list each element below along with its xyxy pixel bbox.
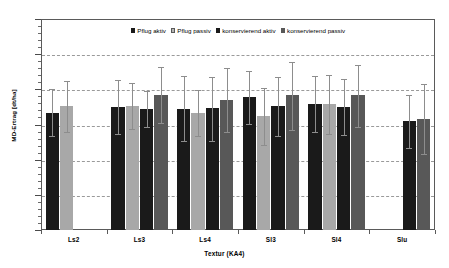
error-bar	[132, 83, 133, 129]
error-bar-cap	[326, 75, 332, 76]
x-tick-label-ls4: Ls4	[180, 236, 230, 243]
legend-swatch-icon	[216, 28, 221, 33]
x-tick-mark	[107, 230, 108, 234]
legend-entry: konservierend aktiv	[216, 27, 276, 34]
legend-entry: Pflug aktiv	[131, 27, 166, 34]
error-bar-cap	[209, 77, 215, 78]
legend-label: Pflug aktiv	[137, 27, 166, 34]
x-tick-mark	[369, 230, 370, 234]
error-bar-cap	[224, 68, 230, 69]
chart-legend: Pflug aktivPflug passivkonservierend akt…	[41, 27, 435, 34]
x-tick-mark	[304, 230, 305, 234]
error-bar	[227, 68, 228, 132]
error-bar-cap	[421, 154, 427, 155]
legend-entry: konservierend passiv	[281, 27, 346, 34]
error-bar	[198, 90, 199, 136]
error-bar-cap	[158, 123, 164, 124]
error-bar-cap	[49, 89, 55, 90]
error-bar-cap	[181, 141, 187, 142]
error-bar-cap	[64, 132, 70, 133]
x-axis-title: Textur (KA4)	[0, 250, 449, 257]
error-bar	[118, 80, 119, 134]
error-bar-cap	[195, 136, 201, 137]
error-bar	[278, 77, 279, 136]
error-bar	[292, 62, 293, 130]
error-bar-cap	[144, 91, 150, 92]
legend-swatch-icon	[281, 28, 286, 33]
x-tick-label-ls3: Ls3	[115, 236, 165, 243]
legend-swatch-icon	[171, 28, 176, 33]
error-bar	[212, 77, 213, 140]
y-axis-title: MD-Ertrag [dt/ha]	[10, 66, 17, 166]
x-tick-mark	[435, 230, 436, 234]
error-bar-cap	[129, 83, 135, 84]
error-bar-cap	[355, 127, 361, 128]
error-bar-cap	[341, 135, 347, 136]
error-bar-cap	[312, 132, 318, 133]
error-bar	[329, 75, 330, 135]
error-bar-cap	[224, 132, 230, 133]
error-bar	[184, 76, 185, 141]
error-bar-cap	[115, 134, 121, 135]
error-bar	[67, 81, 68, 132]
error-bar-cap	[144, 127, 150, 128]
error-bar-cap	[195, 90, 201, 91]
error-bar-cap	[289, 130, 295, 131]
error-bar-cap	[312, 76, 318, 77]
error-bar	[424, 84, 425, 154]
error-bar-cap	[209, 141, 215, 142]
error-bar-cap	[421, 84, 427, 85]
error-bar-cap	[115, 80, 121, 81]
error-bar-cap	[275, 136, 281, 137]
error-bar-cap	[181, 76, 187, 77]
error-bar-cap	[326, 134, 332, 135]
error-bar	[409, 95, 410, 149]
legend-entry: Pflug passiv	[171, 27, 211, 34]
error-bar-cap	[406, 95, 412, 96]
error-bar-cap	[129, 129, 135, 130]
error-bar	[344, 79, 345, 135]
error-bar-cap	[355, 65, 361, 66]
error-bar-cap	[158, 67, 164, 68]
legend-label: Pflug passiv	[177, 27, 210, 34]
x-tick-mark	[238, 230, 239, 234]
error-bar-cap	[64, 81, 70, 82]
error-bar-cap	[275, 77, 281, 78]
error-bar	[147, 91, 148, 128]
x-tick-mark	[172, 230, 173, 234]
error-bar-cap	[289, 62, 295, 63]
x-tick-mark	[41, 230, 42, 234]
error-bar	[161, 67, 162, 123]
bars-layer	[41, 19, 435, 230]
legend-label: konservierend passiv	[287, 27, 345, 34]
error-bar-cap	[261, 88, 267, 89]
error-bar-cap	[261, 145, 267, 146]
error-bar	[264, 88, 265, 145]
x-tick-label-sl3: Sl3	[246, 236, 296, 243]
x-tick-label-ls2: Ls2	[49, 236, 99, 243]
error-bar-cap	[341, 79, 347, 80]
legend-label: konservierend aktiv	[222, 27, 275, 34]
x-tick-label-slu: Slu	[377, 236, 427, 243]
error-bar-cap	[246, 124, 252, 125]
error-bar-cap	[246, 71, 252, 72]
error-bar	[358, 65, 359, 127]
bar-chart: MD-Ertrag [dt/ha] 0102030405060 Ls2Ls3Ls…	[0, 0, 449, 268]
error-bar-cap	[49, 136, 55, 137]
legend-swatch-icon	[131, 28, 136, 33]
x-tick-label-sl4: Sl4	[312, 236, 362, 243]
error-bar	[315, 76, 316, 132]
error-bar	[249, 71, 250, 124]
error-bar	[52, 89, 53, 136]
error-bar-cap	[406, 148, 412, 149]
